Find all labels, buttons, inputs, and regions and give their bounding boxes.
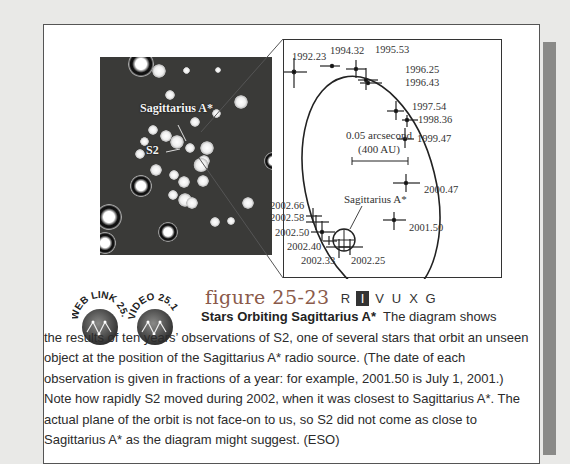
caption-lead: The diagram shows [383,309,496,324]
obs-label-1994-32: 1994.32 [330,45,364,56]
obs-label-1995-53: 1995.53 [375,44,409,55]
frame-shadow [543,42,556,455]
orbit-diagram: 1992.23 1994.32 1995.53 1996.25 1996.43 … [283,39,502,278]
obs-label-1999-47: 1999.47 [417,133,451,144]
caption-body: the results of ten years’ observations o… [44,330,528,448]
scale-sublabel: (400 AU) [358,143,400,155]
obs-label-1998-36: 1998.36 [418,114,452,125]
obs-label-2002-40: 2002.40 [287,241,321,252]
obs-label-1992-23: 1992.23 [292,51,326,62]
scale-label: 0.05 arcsecond [346,129,412,141]
obs-label-2002-66: 2002.66 [270,200,304,211]
obs-label-2002-33: 2002.33 [301,255,335,266]
obs-label-1996-43: 1996.43 [405,77,439,88]
obs-label-1997-54: 1997.54 [412,101,446,112]
figure-caption: Stars Orbiting Sagittarius A* The diagra… [44,300,534,451]
pointer-lines [100,57,272,255]
obs-label-2001-50: 2001.50 [409,222,443,233]
obs-label-2000-47: 2000.47 [424,184,458,195]
obs-label-2002-50: 2002.50 [275,227,309,238]
obs-label-2002-58: 2002.58 [270,212,304,223]
obs-label-2002-25: 2002.25 [351,255,385,266]
obs-label-1996-25: 1996.25 [405,64,439,75]
caption-title: Stars Orbiting Sagittarius A* [201,309,376,324]
star-field-image: Sagittarius A* S2 [100,57,272,255]
center-label: Sagittarius A* [344,193,407,205]
